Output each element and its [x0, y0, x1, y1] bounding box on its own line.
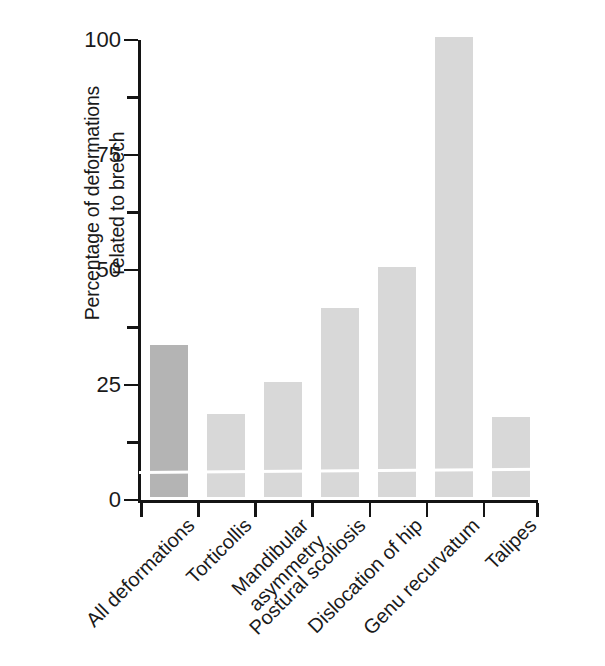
y-axis-title: Percentage of deformations related to br… — [70, 3, 140, 403]
x-axis-label-talipes: Talipes — [481, 514, 541, 574]
x-axis-tick — [254, 503, 257, 517]
bar-postural-scoliosis[interactable] — [321, 308, 359, 497]
bar-talipes[interactable] — [492, 417, 530, 498]
bar-genu-recurvatum[interactable] — [435, 37, 473, 497]
y-axis-tick-minor — [127, 211, 138, 214]
x-axis-label-all-deformations: All deformations — [81, 514, 199, 632]
bar-dislocation-of-hip[interactable] — [378, 267, 416, 497]
x-axis-tick — [426, 503, 429, 517]
y-axis-tick-major — [124, 154, 138, 157]
x-axis-tick — [311, 503, 314, 517]
y-axis-tick-minor — [127, 96, 138, 99]
y-axis-tick-minor — [127, 441, 138, 444]
y-axis-tick-label: 25 — [97, 372, 121, 398]
y-axis-tick-major — [124, 39, 138, 42]
x-axis-tick — [369, 503, 372, 517]
y-axis-tick-label: 100 — [84, 27, 121, 53]
x-axis-tick — [483, 503, 486, 517]
y-axis-tick-major — [124, 499, 138, 502]
x-axis-tick — [140, 503, 143, 517]
bar-chart-figure: Percentage of deformations related to br… — [0, 0, 605, 666]
y-axis-tick-major — [124, 269, 138, 272]
y-axis-tick-label: 0 — [109, 487, 121, 513]
y-axis-tick-minor — [127, 326, 138, 329]
bar-torticollis[interactable] — [207, 414, 245, 497]
x-axis-label-line: Talipes — [481, 514, 541, 574]
x-axis-tick — [536, 503, 539, 517]
y-axis-tick-major — [124, 384, 138, 387]
bar-mandibular-asymmetry[interactable] — [264, 382, 302, 497]
x-axis-tick — [197, 503, 200, 517]
y-axis-line — [138, 40, 141, 501]
bar-all-deformations[interactable] — [150, 345, 188, 497]
y-axis-title-line-1: Percentage of deformations — [80, 86, 105, 320]
y-axis-tick-label: 75 — [97, 142, 121, 168]
x-axis-label-line: All deformations — [81, 514, 198, 631]
y-axis-tick-label: 50 — [97, 257, 121, 283]
plot-area: 0255075100 — [138, 40, 538, 500]
